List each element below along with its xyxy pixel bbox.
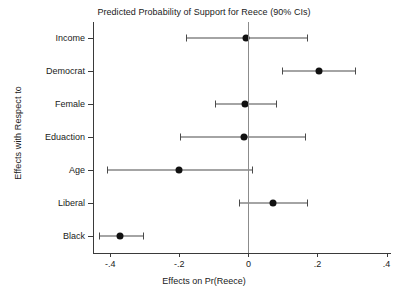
confidence-interval-cap-lower [282,68,283,75]
zero-reference-line [248,22,249,253]
estimate-marker [241,134,248,141]
x-axis-tick-label: -.4 [105,259,116,269]
x-axis-tick-label: .4 [383,259,391,269]
y-axis-label-female: Female [55,99,85,109]
y-axis-tick [88,38,93,39]
x-axis-tick [317,253,318,257]
confidence-interval-cap-lower [215,101,216,108]
x-axis-tick [248,253,249,257]
confidence-interval-cap-lower [180,134,181,141]
x-axis-tick [110,253,111,257]
estimate-marker [117,232,124,239]
y-axis-label-age: Age [69,165,85,175]
chart-title: Predicted Probability of Support for Ree… [0,7,408,17]
y-axis-title: Effects with Respect to [13,53,23,213]
confidence-interval-cap-upper [305,134,306,141]
chart-root: Predicted Probability of Support for Ree… [0,0,408,300]
y-axis-label-democrat: Democrat [46,66,85,76]
estimate-marker [176,166,183,173]
confidence-interval-cap-upper [355,68,356,75]
x-axis-tick [179,253,180,257]
x-axis-tick-label: -.2 [174,259,185,269]
confidence-interval-cap-upper [307,35,308,42]
confidence-interval-cap-lower [186,35,187,42]
confidence-interval-cap-lower [239,199,240,206]
plot-area: IncomeDemocratFemaleEduactionAgeLiberalB… [93,22,390,252]
x-axis-line [93,253,391,254]
y-axis-tick [88,71,93,72]
y-axis-tick [88,170,93,171]
confidence-interval-cap-lower [107,166,108,173]
estimate-marker [315,68,322,75]
x-axis-title: Effects on Pr(Reece) [0,276,408,286]
x-axis-tick [387,253,388,257]
y-axis-tick [88,203,93,204]
x-axis-tick-label: 0 [246,259,251,269]
confidence-interval-cap-upper [276,101,277,108]
estimate-marker [270,199,277,206]
confidence-interval-cap-upper [252,166,253,173]
y-axis-tick [88,137,93,138]
confidence-interval-cap-lower [99,232,100,239]
confidence-interval-cap-upper [307,199,308,206]
y-axis-label-liberal: Liberal [58,198,85,208]
y-axis-tick [88,104,93,105]
y-axis-label-income: Income [55,33,85,43]
x-axis-tick-label: .2 [314,259,322,269]
y-axis-tick [88,236,93,237]
confidence-interval-cap-upper [143,232,144,239]
y-axis-label-eduaction: Eduaction [45,132,85,142]
y-axis-label-black: Black [63,231,85,241]
